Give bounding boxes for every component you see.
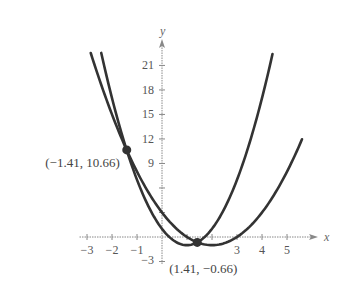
y-tick-label: −3 bbox=[141, 253, 154, 267]
intersection-point bbox=[122, 145, 131, 154]
chart: xy−3−2−1345211815129−3 (−1.41, 10.66)(1.… bbox=[0, 0, 347, 293]
x-tick-label: 5 bbox=[284, 243, 290, 257]
y-tick-label: 21 bbox=[142, 58, 154, 72]
y-tick-label: 9 bbox=[148, 156, 154, 170]
x-tick-label: −2 bbox=[106, 243, 119, 257]
point-label-right: (1.41, −0.66) bbox=[169, 261, 237, 276]
x-tick-label: 3 bbox=[234, 243, 240, 257]
point-label-left: (−1.41, 10.66) bbox=[45, 155, 120, 170]
y-tick-label: 12 bbox=[142, 132, 154, 146]
y-tick-label: 15 bbox=[142, 107, 154, 121]
y-axis-arrow-icon bbox=[159, 39, 165, 48]
intersection-point bbox=[193, 238, 202, 247]
x-tick-label: 4 bbox=[259, 243, 265, 257]
y-tick-label: 18 bbox=[142, 83, 154, 97]
y-axis-label: y bbox=[159, 24, 166, 38]
x-tick-label: −3 bbox=[81, 243, 94, 257]
x-axis-label: x bbox=[323, 230, 330, 244]
axes: xy−3−2−1345211815129−3 bbox=[80, 24, 331, 267]
